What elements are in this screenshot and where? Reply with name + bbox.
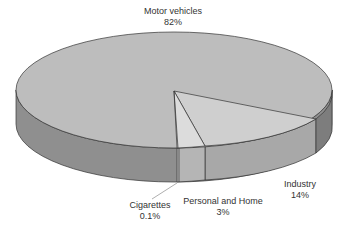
label-cigarettes: Cigarettes 0.1% xyxy=(122,200,178,222)
label-industry-pct: 14% xyxy=(275,190,325,201)
label-personal-home-pct: 3% xyxy=(175,207,271,218)
label-cigarettes-name: Cigarettes xyxy=(122,200,178,211)
label-motor-vehicles-name: Motor vehicles xyxy=(128,6,218,17)
label-industry-name: Industry xyxy=(275,179,325,190)
label-motor-vehicles: Motor vehicles 82% xyxy=(128,6,218,28)
personal-side xyxy=(177,146,205,182)
label-motor-vehicles-pct: 82% xyxy=(128,17,218,28)
label-industry: Industry 14% xyxy=(275,179,325,201)
label-cigarettes-pct: 0.1% xyxy=(122,211,178,222)
label-personal-home-name: Personal and Home xyxy=(175,196,271,207)
cigarettes-leader-line xyxy=(152,183,177,199)
label-personal-home: Personal and Home 3% xyxy=(175,196,271,218)
